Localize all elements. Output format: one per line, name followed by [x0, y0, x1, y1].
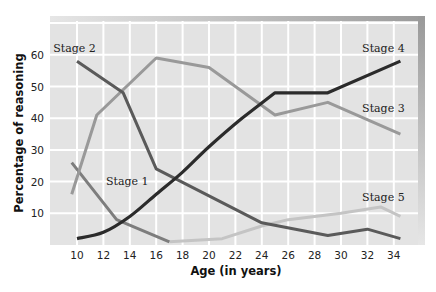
- y-tick-label: 20: [31, 176, 44, 188]
- y-tick-label: 50: [31, 81, 44, 93]
- plot-shadow-top: [50, 16, 425, 21]
- x-tick-label: 16: [150, 249, 164, 261]
- series-label-stage-5: Stage 5: [362, 191, 405, 204]
- series-label-stage-2: Stage 2: [53, 42, 96, 55]
- x-tick-label: 12: [97, 249, 110, 261]
- y-tick-label: 40: [31, 112, 44, 124]
- x-tick-label: 24: [255, 249, 269, 261]
- x-tick-label: 10: [70, 249, 83, 261]
- series-label-stage-3: Stage 3: [362, 102, 405, 115]
- y-axis-ticks: 102030405060: [31, 49, 44, 220]
- series-label-stage-4: Stage 4: [362, 42, 405, 55]
- x-axis-ticks: 10121416182022242628303234: [70, 249, 400, 261]
- x-tick-label: 32: [361, 249, 374, 261]
- x-tick-label: 34: [387, 249, 401, 261]
- line-chart: 102030405060 10121416182022242628303234 …: [0, 0, 436, 292]
- x-tick-label: 14: [123, 249, 137, 261]
- y-tick-label: 60: [31, 49, 44, 61]
- x-tick-label: 20: [202, 249, 215, 261]
- x-tick-label: 30: [334, 249, 347, 261]
- x-tick-label: 22: [229, 249, 242, 261]
- x-tick-label: 18: [176, 249, 189, 261]
- y-axis-label: Percentage of reasoning: [12, 53, 26, 212]
- y-tick-label: 10: [31, 207, 44, 219]
- x-tick-label: 26: [282, 249, 296, 261]
- x-tick-label: 28: [308, 249, 321, 261]
- plot-shadow-right: [418, 16, 425, 245]
- x-axis-label: Age (in years): [190, 264, 281, 278]
- series-label-stage-1: Stage 1: [106, 175, 149, 188]
- y-tick-label: 30: [31, 144, 44, 156]
